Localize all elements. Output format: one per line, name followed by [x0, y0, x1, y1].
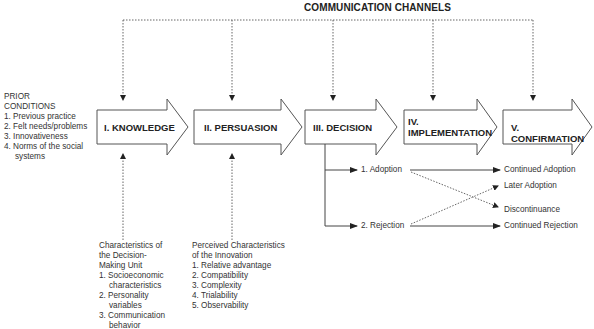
innovation-line: 1. Relative advantage — [192, 261, 285, 271]
outcome-continued-adoption: Continued Adoption — [504, 165, 575, 175]
innovation-line: 5. Observability — [192, 301, 285, 311]
decision-unit-characteristics: Characteristics of the Decision- Making … — [99, 241, 165, 329]
innovation-line: Perceived Characteristics — [192, 241, 285, 251]
innovation-characteristics: Perceived Characteristics of the Innovat… — [192, 241, 285, 311]
stage-label-knowledge: I. KNOWLEDGE — [104, 122, 175, 133]
decision-rejection: 2. Rejection — [361, 221, 404, 231]
prior-conditions-heading: PRIOR — [4, 92, 87, 102]
stage-label-implementation-line1: IV. — [408, 116, 492, 127]
outcome-discontinuance: Discontinuance — [504, 205, 560, 215]
stage-label-implementation: IV. IMPLEMENTATION — [408, 116, 492, 138]
stage-label-decision: III. DECISION — [313, 122, 372, 133]
outcome-continued-rejection: Continued Rejection — [504, 221, 578, 231]
stage-label-implementation-line2: IMPLEMENTATION — [408, 127, 492, 138]
stage-label-confirmation: V. CONFIRMATION — [511, 122, 594, 144]
adoption-to-discontinuance — [411, 172, 498, 207]
rejection-to-later-adoption — [411, 186, 498, 224]
decision-adoption: 1. Adoption — [361, 165, 402, 175]
decision-unit-line: variables — [99, 301, 165, 311]
communication-channels-title: COMMUNICATION CHANNELS — [304, 2, 451, 13]
decision-unit-line: Making Unit — [99, 261, 165, 271]
innovation-line: 3. Complexity — [192, 281, 285, 291]
decision-unit-line: the Decision- — [99, 251, 165, 261]
decision-unit-line: 3. Communication — [99, 311, 165, 321]
decision-unit-line: 1. Socioeconomic — [99, 271, 165, 281]
stage-label-persuasion: II. PERSUASION — [204, 122, 277, 133]
innovation-line: 4. Trialability — [192, 291, 285, 301]
prior-condition-item: systems — [4, 152, 87, 162]
outcome-later-adoption: Later Adoption — [504, 181, 557, 191]
innovation-line: 2. Compatibility — [192, 271, 285, 281]
prior-condition-item: 1. Previous practice — [4, 112, 87, 122]
prior-condition-item: 3. Innovativeness — [4, 132, 87, 142]
innovation-line: of the Innovation — [192, 251, 285, 261]
decision-unit-line: characteristics — [99, 281, 165, 291]
prior-condition-item: 4. Norms of the social — [4, 142, 87, 152]
decision-unit-line: behavior — [99, 321, 165, 329]
prior-condition-item: 2. Felt needs/problems — [4, 122, 87, 132]
prior-conditions-heading: CONDITIONS — [4, 102, 87, 112]
decision-unit-line: Characteristics of — [99, 241, 165, 251]
decision-branches — [325, 144, 500, 226]
decision-unit-line: 2. Personality — [99, 291, 165, 301]
prior-conditions: PRIOR CONDITIONS 1. Previous practice 2.… — [4, 92, 87, 162]
